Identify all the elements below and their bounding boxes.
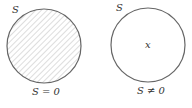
right-set-label: S <box>116 2 123 13</box>
left-set-circle <box>7 9 81 83</box>
right-element-label: x <box>145 39 151 50</box>
left-caption: S = 0 <box>32 86 60 97</box>
right-caption: S ≠ 0 <box>137 85 165 96</box>
left-set-label: S <box>12 4 19 15</box>
